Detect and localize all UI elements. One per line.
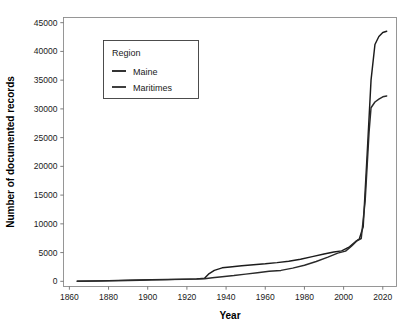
x-tick-label: 1900 <box>138 292 157 302</box>
chart-legend: Region Maine Maritimes <box>104 41 199 99</box>
y-tick-label: 20000 <box>34 161 58 171</box>
x-tick-label: 2020 <box>373 292 392 302</box>
y-tick-label: 40000 <box>34 46 58 56</box>
legend-title: Region <box>112 48 141 58</box>
x-tick-label: 1880 <box>99 292 118 302</box>
y-tick-label: 15000 <box>34 190 58 200</box>
y-axis-title: Number of documented records <box>5 76 16 228</box>
y-tick-label: 5000 <box>39 248 58 258</box>
x-tick-label: 1960 <box>256 292 275 302</box>
y-tick-label: 10000 <box>34 219 58 229</box>
y-tick-label: 0 <box>53 276 58 286</box>
x-tick-label: 2000 <box>334 292 353 302</box>
x-tick-label: 1980 <box>295 292 314 302</box>
y-tick-label: 45000 <box>34 18 58 28</box>
y-tick-label: 25000 <box>34 133 58 143</box>
legend-label-maritimes: Maritimes <box>133 83 173 93</box>
x-axis-title: Year <box>219 310 240 321</box>
chart-figure: 0500010000150002000025000300003500040000… <box>0 0 413 325</box>
x-tick-label: 1860 <box>60 292 79 302</box>
x-tick-label: 1920 <box>177 292 196 302</box>
x-tick-label: 1940 <box>217 292 236 302</box>
y-tick-label: 30000 <box>34 104 58 114</box>
line-chart: 0500010000150002000025000300003500040000… <box>0 0 413 325</box>
y-tick-label: 35000 <box>34 75 58 85</box>
legend-label-maine: Maine <box>133 67 158 77</box>
